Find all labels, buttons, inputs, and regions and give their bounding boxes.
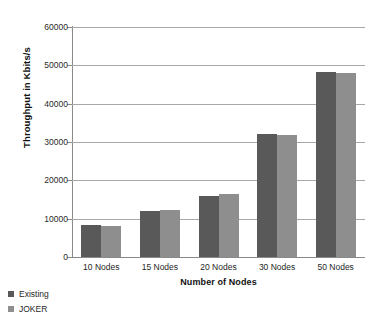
bar-joker-20-nodes	[219, 194, 239, 257]
y-axis-tick-label: 40000	[8, 99, 68, 109]
bar-group	[199, 27, 239, 257]
bar-group	[257, 27, 297, 257]
bar-group	[81, 27, 121, 257]
bar-existing-10-nodes	[81, 225, 101, 257]
legend-item-joker[interactable]: JOKER	[8, 301, 49, 316]
y-axis-tick-label: 20000	[8, 175, 68, 185]
chart-legend: ExistingJOKER	[8, 286, 49, 316]
y-axis-title: Throughput in Kbits/s	[21, 18, 32, 178]
bar-joker-10-nodes	[101, 226, 121, 257]
bar-existing-50-nodes	[316, 72, 336, 257]
legend-swatch-icon	[8, 291, 14, 297]
bar-joker-15-nodes	[160, 210, 180, 257]
x-axis-tick-label: 50 Nodes	[301, 262, 371, 272]
legend-item-existing[interactable]: Existing	[8, 286, 49, 301]
y-axis-tick-label: 30000	[8, 137, 68, 147]
bar-existing-30-nodes	[257, 134, 277, 257]
legend-label: Existing	[19, 289, 49, 299]
legend-swatch-icon	[8, 306, 14, 312]
y-axis-tick-label: 60000	[8, 22, 68, 32]
bar-group	[140, 27, 180, 257]
plot-area	[72, 27, 365, 257]
bar-joker-50-nodes	[336, 73, 356, 257]
gridline	[72, 257, 365, 258]
y-axis-tick-label: 0	[8, 252, 68, 262]
y-axis-tick-label: 50000	[8, 60, 68, 70]
x-axis-title: Number of Nodes	[72, 277, 365, 287]
bar-existing-15-nodes	[140, 211, 160, 257]
bar-joker-30-nodes	[277, 135, 297, 257]
bar-existing-20-nodes	[199, 196, 219, 257]
bar-group	[316, 27, 356, 257]
throughput-bar-chart: Throughput in Kbits/s 010000200003000040…	[0, 0, 380, 317]
bars-layer	[72, 27, 365, 257]
legend-label: JOKER	[19, 304, 47, 314]
y-axis-tick-label: 10000	[8, 214, 68, 224]
